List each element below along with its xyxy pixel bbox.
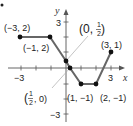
point-label: (2, −1): [100, 93, 126, 103]
x-axis-label: x: [122, 72, 128, 83]
point-label: (3, 1): [101, 40, 122, 50]
svg-text:(: (: [24, 91, 28, 105]
piecewise-graph: y x −3 3 3 −3 (−3, 2) (−1, 2) (0, 1 2 ) …: [0, 0, 133, 126]
point-neg3-2: [18, 35, 23, 40]
y-tick-label: −3: [50, 110, 60, 120]
item-bullet: [1, 4, 4, 7]
point-label: (1, −1): [67, 93, 93, 103]
svg-text:): ): [101, 22, 105, 36]
x-axis-arrow-icon: [119, 66, 125, 71]
point-3-1: [109, 50, 114, 55]
point-2-neg1: [94, 82, 99, 87]
point-label-0-half: (0, 1 2 ): [79, 21, 105, 37]
point-neg1-2: [48, 35, 53, 40]
x-tick-label: −3: [14, 73, 24, 83]
svg-text:, 0): , 0): [34, 94, 47, 104]
point-0-half: [64, 59, 69, 64]
y-tick-label: 3: [56, 18, 61, 28]
x-axis: [8, 66, 125, 71]
point-1-neg1: [79, 82, 84, 87]
point-half-0: [68, 66, 73, 71]
point-label: (−1, 2): [23, 43, 49, 53]
y-axis-label: y: [54, 5, 60, 16]
x-tick-label: 3: [108, 73, 113, 83]
svg-text:2: 2: [29, 99, 33, 106]
point-label: (−3, 2): [4, 23, 30, 33]
svg-text:(0,: (0,: [79, 22, 93, 36]
svg-text:1: 1: [29, 90, 33, 97]
leader-line: [52, 68, 70, 88]
y-axis-arrow-icon: [64, 9, 69, 15]
point-label-half-0: ( 1 2 , 0): [24, 90, 47, 106]
leader-line: [66, 36, 88, 61]
